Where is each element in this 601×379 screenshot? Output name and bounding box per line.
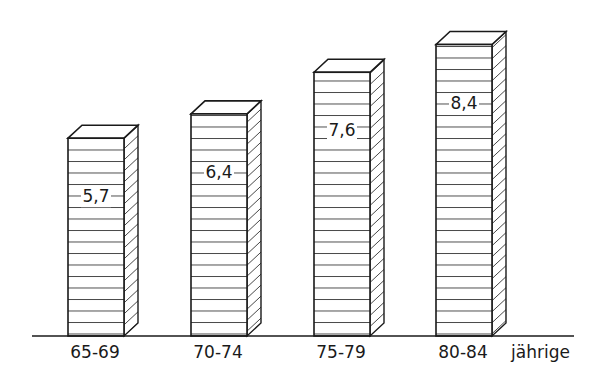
- bar-80-84: 8,4: [436, 32, 506, 336]
- bar-side-face: [124, 125, 138, 336]
- x-axis-unit-label: jährige: [510, 342, 570, 362]
- bar-front-face: [68, 138, 124, 336]
- x-tick-label: 65-69: [70, 342, 119, 362]
- bar-value-label: 5,7: [82, 186, 109, 206]
- bar-side-face: [492, 32, 506, 336]
- x-tick-label: 80-84: [438, 342, 487, 362]
- bar-side-face: [370, 59, 384, 336]
- bar-chart: 5,76,47,68,4 65-6970-7475-7980-84 jährig…: [0, 0, 601, 379]
- bar-value-label: 8,4: [450, 93, 477, 113]
- bar-front-face: [191, 114, 247, 336]
- bar-front-face: [314, 72, 370, 336]
- x-tick-labels: 65-6970-7475-7980-84: [70, 342, 487, 362]
- bar-65-69: 5,7: [68, 125, 138, 336]
- x-tick-label: 70-74: [193, 342, 242, 362]
- bars-group: 5,76,47,68,4: [68, 32, 506, 336]
- bar-70-74: 6,4: [191, 101, 261, 336]
- bar-value-label: 6,4: [205, 162, 232, 182]
- bar-side-face: [247, 101, 261, 336]
- bar-75-79: 7,6: [314, 59, 384, 336]
- x-tick-label: 75-79: [316, 342, 365, 362]
- bar-front-face: [436, 45, 492, 336]
- bar-value-label: 7,6: [328, 120, 355, 140]
